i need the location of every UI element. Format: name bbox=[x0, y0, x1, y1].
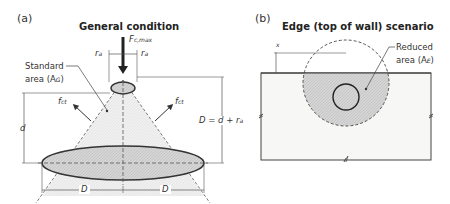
force-label: Fc,max bbox=[129, 35, 152, 44]
panel-a-title: General condition bbox=[79, 22, 179, 32]
offset-right-label: ra bbox=[141, 49, 148, 58]
standard-area-label-1: Standard bbox=[25, 62, 64, 71]
dim-left-label: D bbox=[79, 185, 90, 194]
diameter-equation-label: D = d + ra bbox=[199, 116, 243, 125]
dim-right-label: D bbox=[160, 185, 171, 194]
panel-b-title: Edge (top of wall) scenario bbox=[282, 22, 434, 32]
tension-right-label: fct bbox=[175, 97, 184, 106]
depth-label: d bbox=[20, 124, 25, 133]
edge-offset-label: x bbox=[276, 42, 280, 48]
reduced-area-label-1: Reduced bbox=[396, 43, 433, 52]
anchor-circle bbox=[333, 84, 359, 110]
offset-left-label: ra bbox=[95, 49, 102, 58]
standard-area-label-2: Standardarea (AG) bbox=[25, 75, 64, 84]
panel-a-label: (a) bbox=[17, 13, 32, 24]
tension-left-label: fct bbox=[58, 97, 67, 106]
reduced-area-label-2: area (AE) bbox=[396, 56, 434, 65]
panel-b-label: (b) bbox=[255, 13, 271, 24]
